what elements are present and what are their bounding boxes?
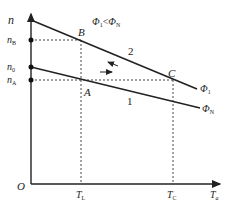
curve-1-label: 1	[127, 95, 133, 107]
tick-n0: n0	[7, 61, 15, 73]
flux-label-phiN: ΦN	[202, 103, 215, 115]
flux-label-phi1: Φ1	[200, 83, 211, 95]
tick-nA: nA	[7, 74, 17, 86]
point-A: A	[83, 86, 91, 98]
condition-label: Φ1<ΦN	[92, 16, 121, 28]
tick-TL: TL	[76, 189, 86, 201]
point-B: B	[78, 26, 85, 38]
x-axis-label: Ta	[210, 189, 219, 201]
speed-torque-diagram: n O nB n0 nA TL TC Ta B A C 2 1 Φ1 ΦN Φ1…	[0, 0, 235, 210]
tick-nB: nB	[7, 34, 16, 46]
y-axis-label: n	[8, 13, 14, 27]
curve-2-label: 2	[128, 45, 134, 57]
dot-nB	[29, 38, 34, 43]
tick-TC: TC	[167, 189, 177, 201]
dot-n0	[29, 65, 34, 70]
dot-nA	[29, 78, 34, 83]
arrow-left-icon	[108, 62, 118, 66]
origin-label: O	[17, 180, 25, 192]
point-C: C	[168, 67, 176, 79]
